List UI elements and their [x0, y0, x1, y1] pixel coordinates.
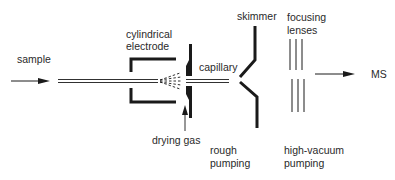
- label-capillary: capillary: [199, 61, 238, 73]
- cylindrical-electrode: [131, 59, 176, 102]
- sample-arrow-icon: [11, 78, 50, 84]
- label-ms: MS: [371, 68, 387, 80]
- label-focusing: focusing: [287, 11, 326, 23]
- spray-plume: [160, 73, 181, 89]
- drying-gas-arrow-icon: [182, 105, 188, 131]
- sample-capillary-tube: [58, 80, 158, 83]
- label-electrode: electrode: [126, 40, 169, 52]
- label-drying-gas: drying gas: [152, 134, 200, 146]
- focusing-lenses: [290, 39, 304, 112]
- label-rough: rough: [210, 144, 237, 156]
- label-high-vacuum: high-vacuum: [284, 144, 344, 156]
- label-rough-pumping: pumping: [210, 157, 250, 169]
- label-cylindrical: cylindrical: [126, 28, 172, 40]
- label-lenses: lenses: [287, 24, 317, 36]
- capillary-inlet-plate: [186, 44, 192, 118]
- label-sample: sample: [17, 53, 51, 65]
- skimmer: [240, 26, 257, 128]
- label-skimmer: skimmer: [237, 10, 277, 22]
- heated-capillary: [186, 80, 229, 83]
- ms-arrow-icon: [315, 71, 355, 77]
- label-high-vacuum-pumping: pumping: [284, 157, 324, 169]
